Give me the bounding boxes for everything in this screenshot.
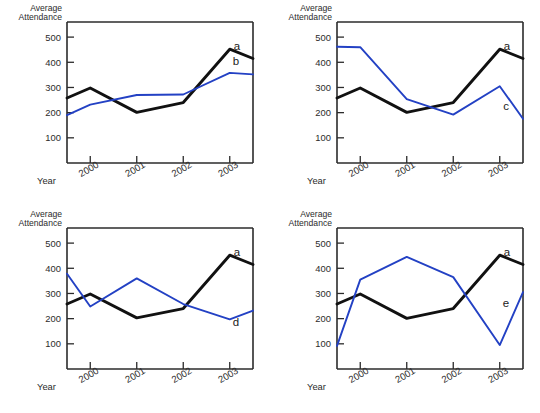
y-tick-label-200: 200 (315, 107, 331, 118)
x-tick-label-2003: 2003 (216, 365, 240, 385)
x-tick-label-2001: 2001 (123, 365, 147, 385)
y-tick-label-300: 300 (315, 82, 331, 93)
y-tick-label-500: 500 (45, 32, 61, 43)
x-tick-label-2002: 2002 (440, 365, 464, 385)
y-tick-label-400: 400 (315, 57, 331, 68)
y-tick-label-100: 100 (315, 132, 331, 143)
x-axis-label: Year (307, 175, 326, 186)
series-line-e (337, 257, 523, 346)
x-tick-label-2001: 2001 (123, 159, 147, 179)
x-axis-label: Year (37, 381, 56, 392)
x-tick-label-2000: 2000 (347, 365, 371, 385)
x-tick-label-2001: 2001 (393, 159, 417, 179)
series-label-b: b (233, 55, 239, 67)
x-tick-label-2002: 2002 (440, 159, 464, 179)
x-tick-label-2002: 2002 (170, 365, 194, 385)
y-tick-label-500: 500 (45, 238, 61, 249)
series-label-d: d (233, 316, 239, 328)
series-label-a: a (504, 40, 511, 52)
chart-panel-bottom-right: AverageAttendance10020030040050020002001… (270, 206, 540, 412)
y-axis-label-line2: Attendance (19, 12, 63, 22)
y-tick-label-300: 300 (45, 82, 61, 93)
x-axis-label: Year (307, 381, 326, 392)
y-tick-label-400: 400 (45, 263, 61, 274)
x-axis-label: Year (37, 175, 56, 186)
series-label-a: a (504, 246, 511, 258)
chart-panel-top-left: AverageAttendance10020030040050020002001… (0, 0, 270, 206)
y-tick-label-100: 100 (45, 338, 61, 349)
x-tick-label-2003: 2003 (216, 159, 240, 179)
y-tick-label-100: 100 (315, 338, 331, 349)
four-panel-line-chart-figure: AverageAttendance10020030040050020002001… (0, 0, 540, 413)
y-tick-label-400: 400 (45, 57, 61, 68)
y-tick-label-400: 400 (315, 263, 331, 274)
y-axis-label-line2: Attendance (19, 218, 63, 228)
series-label-a: a (234, 246, 241, 258)
x-tick-label-2003: 2003 (486, 159, 510, 179)
series-label-a: a (234, 40, 241, 52)
series-line-a (337, 49, 523, 112)
series-label-c: c (503, 100, 509, 112)
x-tick-label-2000: 2000 (347, 159, 371, 179)
y-tick-label-200: 200 (45, 107, 61, 118)
series-line-a (337, 255, 523, 318)
chart-panel-top-right: AverageAttendance10020030040050020002001… (270, 0, 540, 206)
series-label-e: e (503, 297, 509, 309)
y-tick-label-100: 100 (45, 132, 61, 143)
y-tick-label-300: 300 (315, 288, 331, 299)
y-axis-label-line2: Attendance (289, 218, 333, 228)
x-tick-label-2001: 2001 (393, 365, 417, 385)
y-tick-label-200: 200 (45, 313, 61, 324)
y-tick-label-500: 500 (315, 238, 331, 249)
x-tick-label-2000: 2000 (77, 365, 101, 385)
y-tick-label-500: 500 (315, 32, 331, 43)
x-tick-label-2000: 2000 (77, 159, 101, 179)
y-tick-label-200: 200 (315, 313, 331, 324)
x-tick-label-2003: 2003 (486, 365, 510, 385)
chart-panel-bottom-left: AverageAttendance10020030040050020002001… (0, 206, 270, 412)
y-axis-label-line2: Attendance (289, 12, 333, 22)
y-tick-label-300: 300 (45, 288, 61, 299)
x-tick-label-2002: 2002 (170, 159, 194, 179)
series-line-a (67, 255, 253, 318)
